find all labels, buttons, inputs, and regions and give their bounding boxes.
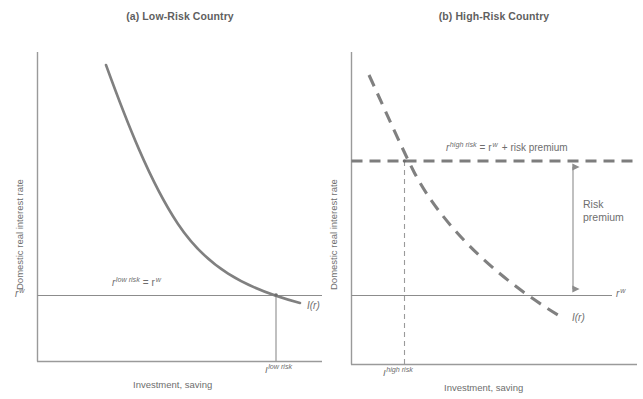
y-axis-label-high-risk: Domestic real interest rate [328, 179, 339, 290]
equilibrium-tick-high-risk-sup: high risk [386, 365, 413, 374]
high-risk-rate-equals: = r [477, 142, 492, 153]
panel-title-low-risk: (a) Low-Risk Country [90, 10, 270, 22]
x-axis-label-low-risk: Investment, saving [133, 379, 212, 390]
world-rate-tick-high-risk: rw [616, 288, 626, 299]
risk-rate-line-label: rhigh risk= rw+ risk premium [446, 142, 568, 153]
panel-title-high-risk: (b) High-Risk Country [404, 10, 584, 22]
panel-low-risk-axes [37, 52, 322, 362]
risk-premium-line1: Risk [583, 198, 624, 211]
high-risk-rate-tail: + risk premium [498, 142, 568, 153]
world-rate-tick-low-risk-sup: w [18, 286, 24, 295]
high-risk-rate-sup: high risk [449, 140, 476, 149]
investment-curve-label-high-risk: I(r) [572, 312, 585, 323]
investment-curve-low-risk [106, 65, 300, 303]
figure-canvas [0, 0, 643, 399]
low-risk-rate-sup: low risk [115, 275, 139, 284]
equilibrium-point-low-risk [274, 293, 278, 297]
equilibrium-tick-low-risk-sup: low risk [268, 362, 292, 371]
low-risk-rate-world-sup: w [155, 275, 161, 284]
high-risk-rate-world-sup: w [492, 140, 498, 149]
equilibrium-point-high-risk [403, 159, 407, 163]
world-rate-tick-low-risk: rw [15, 288, 25, 299]
risk-premium-annotation: Risk premium [583, 198, 624, 224]
investment-curve-label-low-risk: I(r) [307, 300, 320, 311]
equilibrium-tick-high-risk: Ihigh risk [383, 367, 413, 378]
world-rate-tick-high-risk-sup: w [619, 286, 625, 295]
x-axis-label-high-risk: Investment, saving [444, 382, 523, 393]
world-rate-line-label-low-risk: rlow risk= rw [112, 277, 161, 288]
figure-root: (a) Low-Risk Country Domestic real inter… [0, 0, 643, 399]
low-risk-rate-equals: = r [140, 277, 155, 288]
equilibrium-tick-low-risk: Ilow risk [265, 364, 292, 375]
y-axis-label-low-risk: Domestic real interest rate [14, 179, 25, 290]
investment-curve-high-risk [369, 75, 563, 318]
risk-premium-line2: premium [583, 211, 624, 224]
